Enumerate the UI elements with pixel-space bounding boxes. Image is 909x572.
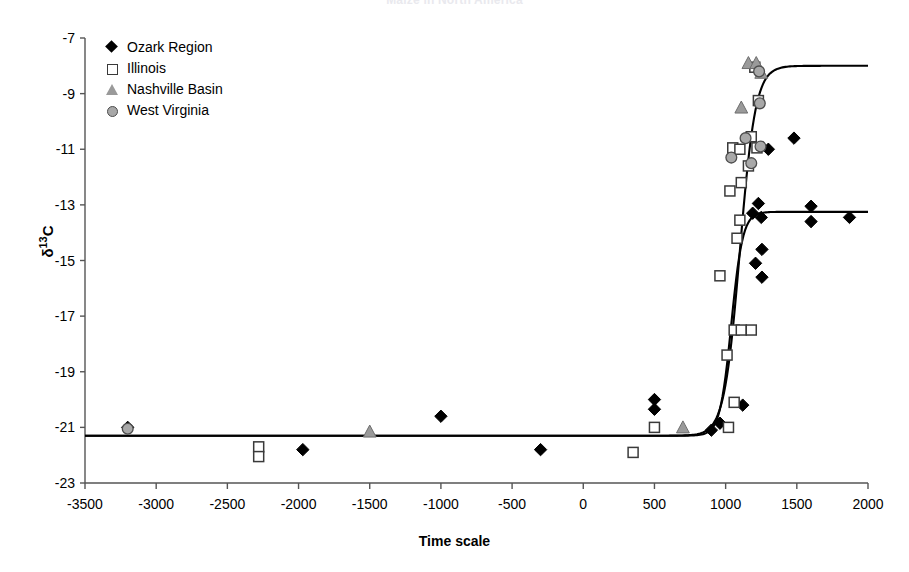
diamond-icon (104, 38, 122, 56)
data-point-diamond (843, 211, 855, 223)
y-axis-title-element: C (39, 225, 56, 236)
y-tick-label: -7 (63, 30, 76, 46)
data-point-diamond (534, 443, 546, 455)
data-point-square (649, 422, 659, 432)
square-icon (104, 59, 122, 77)
x-tick-label: 500 (643, 496, 667, 512)
data-point-diamond (756, 271, 768, 283)
data-point-square (723, 422, 733, 432)
legend-item-circle[interactable]: West Virginia (104, 99, 223, 120)
y-tick-label: -9 (63, 86, 76, 102)
y-tick-label: -15 (55, 253, 75, 269)
y-tick-label: -13 (55, 197, 75, 213)
data-point-square (732, 233, 742, 243)
x-tick-label: -1500 (352, 496, 388, 512)
data-point-square (736, 178, 746, 188)
data-point-diamond (805, 200, 817, 212)
x-tick-label: -1000 (423, 496, 459, 512)
chart-root: Maize in North America -23-21-19-17-15-1… (0, 0, 909, 572)
y-tick-label: -17 (55, 308, 75, 324)
y-tick-label: -19 (55, 364, 75, 380)
data-point-square (715, 271, 725, 281)
series-3 (122, 66, 766, 434)
legend-item-label: West Virginia (127, 102, 209, 118)
series-2 (363, 57, 767, 438)
data-point-square (254, 442, 264, 452)
x-tick-label: -3000 (138, 496, 174, 512)
data-point-triangle (735, 101, 748, 113)
x-tick-label: 2000 (852, 496, 883, 512)
x-tick-label: 0 (579, 496, 587, 512)
data-point-triangle (677, 421, 690, 433)
data-point-diamond (805, 215, 817, 227)
x-axis-title: Time scale (0, 533, 909, 549)
x-tick-label: -3500 (67, 496, 103, 512)
data-point-diamond (297, 443, 309, 455)
data-point-square (746, 325, 756, 335)
x-tick-label: 1500 (781, 496, 812, 512)
legend-item-label: Illinois (127, 60, 166, 76)
data-point-diamond (435, 410, 447, 422)
legend-item-label: Ozark Region (127, 39, 213, 55)
y-tick-label: -21 (55, 419, 75, 435)
y-axis-title-delta: δ (39, 249, 56, 258)
fit-curves (85, 66, 868, 436)
legend-item-label: Nashville Basin (127, 81, 223, 97)
x-tick-label: -2500 (209, 496, 245, 512)
x-axis-ticks: -3500-3000-2500-2000-1500-1000-500050010… (67, 483, 884, 512)
data-point-square (736, 325, 746, 335)
data-point-circle (755, 141, 766, 152)
data-point-diamond (749, 257, 761, 269)
data-point-diamond (756, 243, 768, 255)
data-point-circle (754, 98, 765, 109)
data-point-square (735, 215, 745, 225)
data-point-square (722, 350, 732, 360)
data-point-square (725, 186, 735, 196)
data-point-square (628, 447, 638, 457)
fit-curve-upper-sigmoid (85, 66, 868, 436)
data-point-square (729, 397, 739, 407)
y-tick-label: -11 (56, 141, 75, 157)
y-axis-ticks: -23-21-19-17-15-13-11-9-7 (55, 30, 85, 491)
data-point-square (254, 452, 264, 462)
triangle-icon (104, 80, 122, 98)
x-tick-label: -500 (498, 496, 526, 512)
legend-item-triangle[interactable]: Nashville Basin (104, 78, 223, 99)
data-point-square (735, 144, 745, 154)
y-axis-title: δ13C (37, 182, 56, 302)
chart-legend: Ozark RegionIllinoisNashville BasinWest … (104, 36, 223, 120)
fit-curve-lower-sigmoid (85, 212, 868, 436)
y-tick-label: -23 (55, 475, 75, 491)
data-point-circle (754, 66, 765, 77)
data-point-diamond (648, 403, 660, 415)
series-1 (254, 62, 764, 461)
legend-item-diamond[interactable]: Ozark Region (104, 36, 223, 57)
y-axis-title-superscript: 13 (37, 236, 49, 248)
data-point-circle (122, 423, 133, 434)
circle-icon (104, 101, 122, 119)
data-point-circle (726, 152, 737, 163)
x-tick-label: -2000 (281, 496, 317, 512)
data-point-diamond (788, 132, 800, 144)
data-point-circle (746, 158, 757, 169)
data-point-circle (740, 133, 751, 144)
legend-item-square[interactable]: Illinois (104, 57, 223, 78)
x-tick-label: 1000 (710, 496, 741, 512)
data-point-triangle (363, 425, 376, 437)
